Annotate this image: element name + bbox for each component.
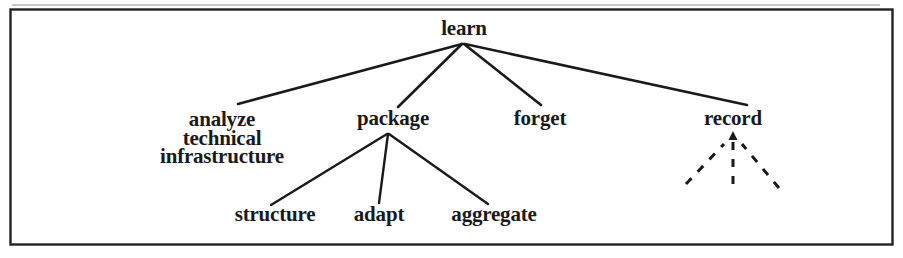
node-label-analyze-line-3: infrastructure [160, 147, 284, 166]
node-label-aggregate: aggregate [451, 205, 536, 223]
node-label-structure: structure [235, 205, 316, 223]
node-label-forget: forget [514, 109, 566, 127]
node-label-package: package [357, 109, 429, 127]
node-label-record: record [704, 109, 762, 127]
tree-diagram-figure: learn analyze technical infrastructure p… [0, 0, 903, 258]
node-label-analyze-technical-infrastructure: analyze technical infrastructure [160, 110, 284, 166]
node-label-learn: learn [441, 19, 487, 37]
node-label-adapt: adapt [354, 205, 404, 223]
